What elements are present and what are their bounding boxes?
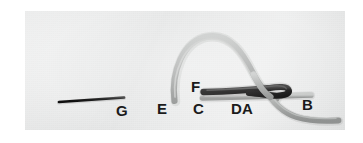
label-da: DA [231, 101, 253, 116]
black-hook-strand [204, 86, 289, 96]
photograph: G E F C DA B [25, 11, 345, 130]
suture-scene [25, 11, 345, 130]
label-e: E [157, 101, 167, 116]
figure-root: G E F C DA B [0, 0, 363, 143]
label-f: F [191, 79, 200, 94]
label-c: C [193, 101, 204, 116]
black-straight-strand-g [59, 98, 124, 103]
label-b: B [302, 97, 313, 112]
label-g: G [116, 103, 128, 118]
